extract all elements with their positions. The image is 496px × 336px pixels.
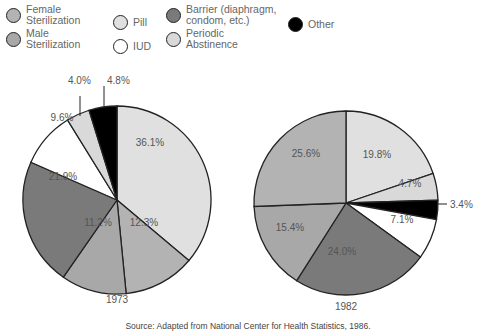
pie-charts: 36.1%12.3%11.2%21.9%9.6%4.0%4.8%197319.8…: [0, 0, 496, 336]
slice-label: 3.4%: [450, 199, 473, 210]
slice-label: 9.6%: [51, 112, 74, 123]
pie-year-label: 1982: [335, 301, 358, 312]
slice-label: 15.4%: [276, 222, 304, 233]
slice-label: 11.2%: [84, 217, 112, 228]
slice-label: 7.1%: [391, 214, 414, 225]
pie-year-label: 1973: [106, 294, 129, 305]
slice-label: 36.1%: [136, 137, 164, 148]
slice-label: 19.8%: [363, 149, 391, 160]
chart-figure: FemaleSterilization MaleSterilization Pi…: [0, 0, 496, 336]
slice-label: 4.7%: [399, 178, 422, 189]
pie-1982: 19.8%4.7%3.4%7.1%24.0%15.4%25.6%1982: [254, 111, 473, 312]
pie-1973: 36.1%12.3%11.2%21.9%9.6%4.0%4.8%1973: [23, 75, 211, 305]
slice-label: 25.6%: [292, 148, 320, 159]
slice-label: 4.0%: [68, 75, 91, 86]
slice-label: 21.9%: [49, 171, 77, 182]
slice-label: 24.0%: [328, 246, 356, 257]
slice-label: 12.3%: [130, 217, 158, 228]
slice-label: 4.8%: [107, 75, 130, 86]
source-note: Source: Adapted from National Center for…: [0, 321, 496, 331]
